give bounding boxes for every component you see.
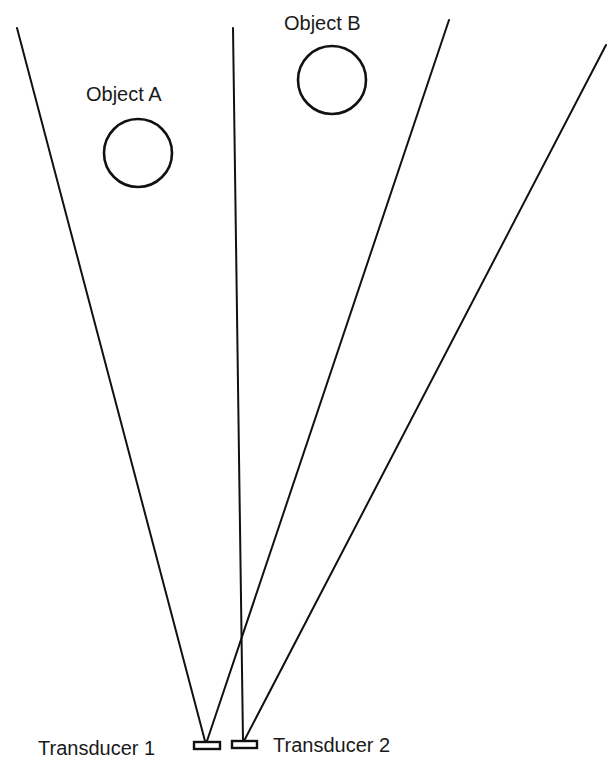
transducer-beam-diagram: Object A Object B Transducer 1 Transduce… [0, 0, 612, 774]
transducer-2-beam-left [233, 28, 243, 741]
transducer-1-label: Transducer 1 [38, 737, 155, 759]
object-b-label: Object B [284, 12, 361, 34]
transducer-1-beam-right [207, 20, 449, 741]
transducer-2-label: Transducer 2 [273, 734, 390, 756]
transducer-2-beam-right [244, 45, 606, 741]
transducer-2-element [232, 741, 257, 748]
object-a-circle [104, 119, 172, 187]
transducer-1-element [194, 742, 220, 749]
object-b-circle [298, 46, 366, 114]
transducer-1-beam-left [17, 28, 205, 741]
object-a-label: Object A [86, 83, 162, 105]
